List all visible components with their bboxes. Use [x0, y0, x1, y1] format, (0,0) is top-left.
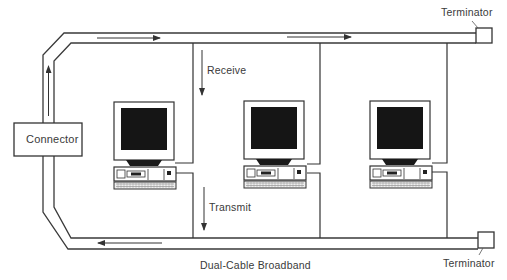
- drop-transmit-3: [432, 172, 447, 238]
- terminator-top: [476, 28, 492, 43]
- connector-label: Connector: [26, 133, 79, 145]
- computer-3: [370, 101, 432, 188]
- computer-1: [114, 102, 176, 189]
- drop-receive-2: [307, 43, 320, 164]
- terminator-top-label: Terminator: [441, 6, 493, 18]
- drop-receive-3: [432, 43, 447, 163]
- computer-2: [244, 101, 306, 188]
- drop-transmit-2: [307, 173, 320, 238]
- drop-receive-1: [175, 43, 193, 163]
- terminator-bottom-label: Terminator: [443, 257, 495, 269]
- diagram-title: Dual-Cable Broadband: [200, 259, 311, 271]
- drop-transmit-1: [175, 173, 193, 238]
- transmit-label: Transmit: [209, 201, 251, 213]
- terminator-bottom: [478, 232, 494, 248]
- receive-label: Receive: [207, 64, 246, 76]
